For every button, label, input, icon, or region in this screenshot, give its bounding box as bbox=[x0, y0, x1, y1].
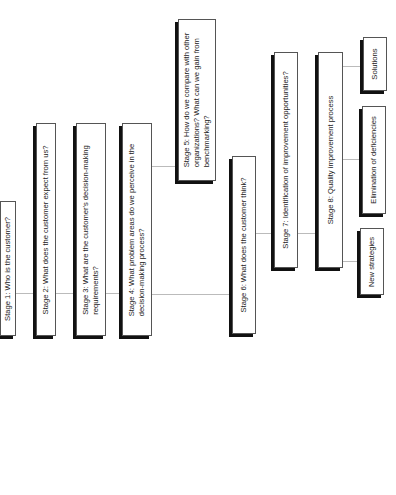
node-stage5: Stage 5: How do we compare with other or… bbox=[178, 19, 216, 181]
node-stage3: Stage 3: What are the customer's decisio… bbox=[76, 123, 106, 336]
node-label: Stage 5: How do we compare with other or… bbox=[182, 33, 212, 168]
node-new-strategies: New strategies bbox=[360, 228, 384, 295]
node-label: Stage 6: What does the customer think? bbox=[239, 177, 249, 312]
connector-stage4-stage5 bbox=[152, 166, 178, 167]
connector-stage1-stage2 bbox=[16, 293, 36, 294]
node-label: Stage 3: What are the customer's decisio… bbox=[81, 145, 101, 314]
connector-stage2-stage3 bbox=[56, 293, 76, 294]
node-label: Stage 1: Who is the customer? bbox=[3, 217, 13, 321]
node-stage7: Stage 7: Identification of improvement o… bbox=[274, 52, 298, 268]
node-solutions: Solutions bbox=[363, 37, 387, 91]
process-diagram: Stage 1: Who is the customer? Stage 2: W… bbox=[0, 0, 396, 495]
node-label: Stage 2: What does the customer expect f… bbox=[41, 145, 51, 314]
node-label: Stage 4: What problem areas do we percei… bbox=[127, 143, 147, 316]
node-stage1: Stage 1: Who is the customer? bbox=[0, 201, 16, 336]
connector-stage8-elimination bbox=[343, 159, 360, 160]
node-label: Stage 7: Identification of improvement o… bbox=[281, 71, 291, 248]
node-stage4: Stage 4: What problem areas do we percei… bbox=[122, 123, 152, 336]
node-label: New strategies bbox=[367, 236, 377, 286]
connector-stage8-new-strategies bbox=[343, 261, 360, 262]
node-label: Stage 8: Quality improvement process bbox=[326, 96, 336, 225]
node-stage8: Stage 8: Quality improvement process bbox=[318, 52, 343, 268]
connector-stage4-stage6 bbox=[152, 294, 232, 295]
node-stage6: Stage 6: What does the customer think? bbox=[232, 156, 256, 334]
node-label: Elimination of deficiencies bbox=[369, 116, 379, 203]
node-stage2: Stage 2: What does the customer expect f… bbox=[36, 123, 56, 336]
node-label: Solutions bbox=[370, 48, 380, 79]
connector-stage7-stage8 bbox=[298, 233, 318, 234]
connector-stage6-stage7 bbox=[256, 233, 274, 234]
node-elimination: Elimination of deficiencies bbox=[362, 106, 386, 214]
connector-stage3-stage4 bbox=[106, 293, 122, 294]
connector-stage8-solutions bbox=[343, 66, 363, 67]
